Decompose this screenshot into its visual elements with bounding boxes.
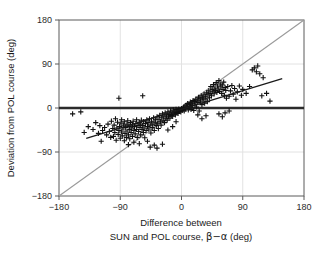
x-axis-tick-label: 90	[238, 202, 248, 212]
y-axis-tick-label: 180	[37, 15, 52, 25]
y-axis-tick-label: 0	[47, 103, 52, 113]
x-axis-tick-label: −90	[113, 202, 128, 212]
plot-canvas: −180−90090180−180−90090180 Difference be…	[0, 0, 324, 253]
y-axis-tick-label: −90	[37, 147, 52, 157]
x-axis-title-symbol: β−α	[206, 231, 228, 242]
x-axis-title-line1: Difference between	[140, 217, 222, 228]
x-axis-tick-label: −180	[49, 202, 69, 212]
y-axis-tick-label: −180	[32, 191, 52, 201]
x-axis-tick-label: 180	[296, 202, 311, 212]
x-axis-title-suffix: (deg)	[227, 231, 252, 242]
scatter-plot-figure: −180−90090180−180−90090180 Difference be…	[0, 0, 324, 253]
figure-background	[0, 0, 324, 253]
x-axis-tick-label: 0	[179, 202, 184, 212]
y-axis-tick-label: 90	[42, 59, 52, 69]
x-axis-title-line2: SUN and POL course, β−α (deg)	[110, 231, 252, 242]
y-axis-title: Deviation from POL course (deg)	[5, 39, 16, 178]
x-axis-title-prefix: SUN and POL course,	[110, 231, 206, 242]
